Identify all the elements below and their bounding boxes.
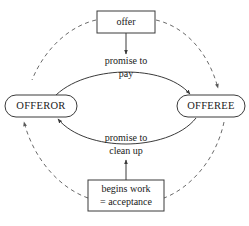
offeror-label: OFFEROR xyxy=(16,100,65,111)
promise-to-pay-line1: promise to xyxy=(105,55,148,66)
begins-work-label-line1: begins work xyxy=(101,183,150,194)
node-offeree[interactable]: OFFEREE xyxy=(177,95,245,117)
dashed-cycle-bottom-left-edge xyxy=(24,122,88,198)
contract-cycle-diagram: offer OFFEROR OFFEREE begins work = acce… xyxy=(0,0,249,226)
node-offeror[interactable]: OFFEROR xyxy=(5,95,77,117)
promise-to-pay-line2: pay xyxy=(119,68,133,79)
offeree-label: OFFEREE xyxy=(187,100,235,111)
promise-to-clean-up-line1: promise to xyxy=(105,132,148,143)
diagram-canvas: offer OFFEROR OFFEREE begins work = acce… xyxy=(0,0,249,226)
begins-work-label-line2: = acceptance xyxy=(100,196,153,207)
promise-to-clean-up-line2: clean up xyxy=(109,145,143,156)
edge-label-promise-to-pay: promise to pay xyxy=(105,55,148,79)
node-begins-work[interactable]: begins work = acceptance xyxy=(88,180,164,211)
dashed-cycle-bottom-right-edge xyxy=(164,122,224,198)
offer-label: offer xyxy=(116,16,136,27)
dashed-cycle-top-left-edge xyxy=(32,20,96,80)
node-offer[interactable]: offer xyxy=(97,11,155,33)
